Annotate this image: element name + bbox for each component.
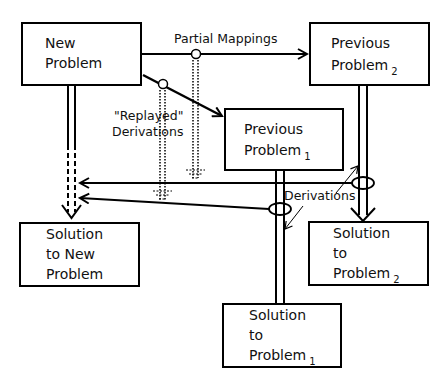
- node-label: Problem2: [333, 263, 400, 285]
- node-label: Solution: [333, 223, 390, 243]
- node-label: Solution: [249, 305, 306, 325]
- node-label: Problem: [46, 264, 103, 284]
- new-to-solution-dashed-arrow: [62, 85, 81, 218]
- replayed-label: "Replayed": [114, 108, 183, 124]
- node-label: Previous: [331, 33, 390, 53]
- node-label: Problem1: [244, 140, 311, 162]
- node-solution-problem-1: Solution to Problem1: [222, 303, 342, 368]
- replayed-derivations-label: Derivations: [112, 124, 183, 140]
- node-label: Problem: [45, 53, 102, 73]
- partial-mappings-label: Partial Mappings: [174, 31, 277, 47]
- node-label: to: [333, 243, 347, 263]
- node-solution-new-problem: Solution to New Problem: [19, 222, 140, 287]
- partial-mapping-dotted-line: [186, 50, 205, 179]
- node-label: to New: [46, 244, 95, 264]
- node-new-problem: New Problem: [21, 22, 142, 86]
- node-label: New: [45, 33, 76, 53]
- node-label: Problem2: [331, 55, 398, 77]
- node-previous-problem-1: Previous Problem1: [224, 108, 344, 171]
- node-solution-problem-2: Solution to Problem2: [308, 221, 429, 286]
- node-previous-problem-2: Previous Problem2: [309, 22, 430, 86]
- node-label: Previous: [244, 119, 303, 139]
- node-label: to: [249, 325, 263, 345]
- node-label: Solution: [46, 224, 103, 244]
- derivation1-arrow: [80, 198, 291, 215]
- node-label: Problem1: [249, 345, 316, 367]
- derivations-label: Derivations: [284, 188, 355, 204]
